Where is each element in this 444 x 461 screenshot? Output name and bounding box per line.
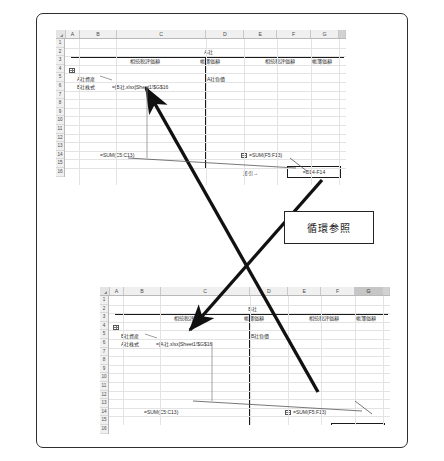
row-header-14[interactable]: 14 <box>100 408 108 417</box>
col-header-a-G[interactable]: G <box>311 30 339 38</box>
grid-b[interactable]: B社 相続税評価額 帳簿価額 相続税評価額 帳簿価額 B社資産 A社株式 =[A… <box>109 296 390 425</box>
gridline-v <box>123 296 124 425</box>
gridline-v <box>288 296 289 425</box>
gridline-v <box>160 296 161 425</box>
row-header-14[interactable]: 14 <box>56 151 64 160</box>
gridline-v <box>339 39 340 185</box>
row-header-7[interactable]: 7 <box>100 348 108 357</box>
row-header-7[interactable]: 7 <box>56 91 64 100</box>
row-header-6[interactable]: 6 <box>56 82 64 91</box>
col-header-b-D[interactable]: D <box>250 287 288 295</box>
row-header-6[interactable]: 6 <box>100 339 108 348</box>
col-header-b-E[interactable]: E <box>288 287 321 295</box>
row-header-8[interactable]: 8 <box>100 356 108 365</box>
row-header-8[interactable]: 8 <box>56 99 64 108</box>
gridline-v <box>206 39 207 185</box>
row-header-11[interactable]: 11 <box>100 382 108 391</box>
col-header-a-C[interactable]: C <box>117 30 207 38</box>
row-header-col-b: 12345678910111213141516 <box>100 296 109 434</box>
gridline-v <box>321 296 322 425</box>
col-header-a-D[interactable]: D <box>206 30 244 38</box>
row-header-3[interactable]: 3 <box>56 56 64 65</box>
table-icon-a <box>69 68 75 73</box>
row-header-9[interactable]: 9 <box>100 365 108 374</box>
row-header-col-a: 12345678910111213141516 <box>56 39 65 177</box>
gridline-v <box>311 39 312 185</box>
gridline-v <box>355 296 356 425</box>
row-header-1[interactable]: 1 <box>100 296 108 305</box>
select-all-corner-b[interactable] <box>100 287 110 295</box>
gridline-v <box>250 296 251 425</box>
row-header-2[interactable]: 2 <box>56 48 64 57</box>
row-header-2[interactable]: 2 <box>100 305 108 314</box>
cell-b-c14-formula[interactable]: =SUM(C5:C13) <box>144 408 178 417</box>
row-header-10[interactable]: 10 <box>56 116 64 125</box>
row-header-13[interactable]: 13 <box>100 399 108 408</box>
column-header-row-b: A B C D E F G <box>100 287 390 296</box>
cell-a-c14-formula[interactable]: =SUM(C5:C13) <box>100 151 134 160</box>
row-header-9[interactable]: 9 <box>56 108 64 117</box>
gridline-v <box>244 39 245 185</box>
row-header-5[interactable]: 5 <box>100 330 108 339</box>
col-header-a-A[interactable]: A <box>66 30 80 38</box>
col-header-b-C[interactable]: C <box>161 287 251 295</box>
column-header-row-a: A B C D E F G <box>56 30 346 39</box>
row-header-12[interactable]: 12 <box>56 134 64 143</box>
col-header-b-B[interactable]: B <box>124 287 161 295</box>
circular-reference-callout: 循環参照 <box>284 211 374 244</box>
cell-a-f16-label: 差引→ <box>243 169 258 178</box>
col-header-b-A[interactable]: A <box>110 287 124 295</box>
row-header-4[interactable]: 4 <box>100 322 108 331</box>
spreadsheet-a[interactable]: A B C D E F G 12345678910111213141516 A社… <box>56 30 346 185</box>
gridline-v <box>79 39 80 185</box>
row-header-3[interactable]: 3 <box>100 313 108 322</box>
select-all-corner-a[interactable] <box>56 30 66 38</box>
col-header-b-G[interactable]: G <box>355 287 383 295</box>
grid-a[interactable]: A社 相続税評価額 帳簿価額 相続税評価額 帳簿価額 A社資産 B社株式 =[B… <box>65 39 346 185</box>
row-header-16[interactable]: 16 <box>56 168 64 177</box>
gridline-v <box>116 39 117 185</box>
col-header-a-E[interactable]: E <box>244 30 277 38</box>
row-header-15[interactable]: 15 <box>56 159 64 168</box>
row-header-1[interactable]: 1 <box>56 39 64 48</box>
col-header-a-overflow <box>339 30 346 38</box>
row-header-11[interactable]: 11 <box>56 125 64 134</box>
row-header-4[interactable]: 4 <box>56 65 64 74</box>
row-header-12[interactable]: 12 <box>100 391 108 400</box>
gridline-v <box>383 296 384 425</box>
row-header-16[interactable]: 16 <box>100 425 108 434</box>
gridline-v <box>277 39 278 185</box>
row-header-13[interactable]: 13 <box>56 142 64 151</box>
cell-a-company: A社 <box>71 48 346 57</box>
row-header-10[interactable]: 10 <box>100 373 108 382</box>
col-header-b-overflow <box>383 287 390 295</box>
cell-b-company: B社 <box>115 305 390 314</box>
circular-reference-label: 循環参照 <box>307 220 351 235</box>
col-header-b-F[interactable]: F <box>321 287 355 295</box>
row-header-15[interactable]: 15 <box>100 416 108 425</box>
spreadsheet-b[interactable]: A B C D E F G 12345678910111213141516 B社… <box>100 287 390 425</box>
row-header-5[interactable]: 5 <box>56 73 64 82</box>
col-header-a-B[interactable]: B <box>80 30 117 38</box>
col-header-a-F[interactable]: F <box>277 30 311 38</box>
table-icon-b <box>113 325 119 330</box>
